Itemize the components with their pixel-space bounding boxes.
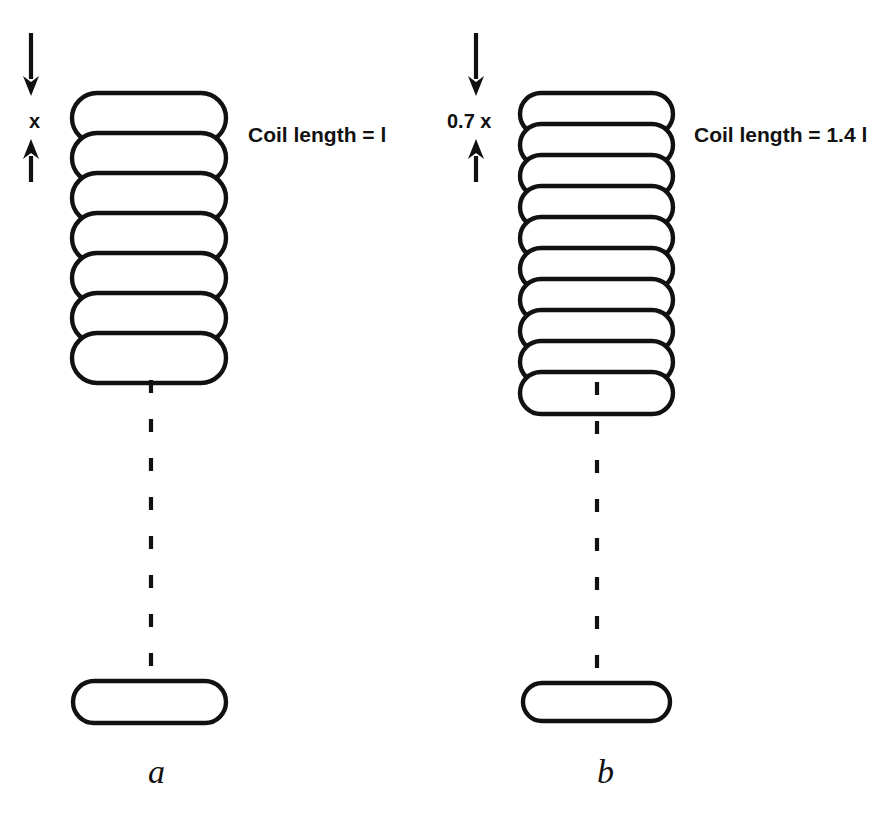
- displacement-label: x: [29, 110, 40, 132]
- panel-caption: b: [597, 753, 614, 790]
- coil-stack: [72, 93, 226, 383]
- coil-loop: [72, 333, 226, 383]
- panel-a: xCoil length = la: [23, 33, 386, 790]
- displacement-label: 0.7 x: [447, 110, 491, 132]
- diagram-canvas: xCoil length = la 0.7 xCoil length = 1.4…: [0, 0, 888, 813]
- panel-caption: a: [148, 753, 165, 790]
- coil-length-label: Coil length = 1.4 l: [694, 123, 867, 146]
- coil-length-label: Coil length = l: [248, 123, 386, 146]
- spring-coil-diagram: xCoil length = la 0.7 xCoil length = 1.4…: [0, 0, 888, 813]
- bottom-end-loop: [523, 683, 670, 721]
- coil-stack: [520, 93, 673, 414]
- panel-b: 0.7 xCoil length = 1.4 lb: [447, 33, 867, 790]
- bottom-end-loop: [73, 681, 226, 723]
